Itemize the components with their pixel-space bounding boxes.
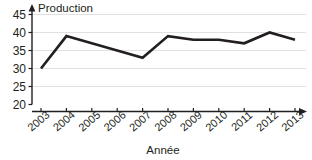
y-tick-labels: 45 40 35 30 25 20 [13, 8, 27, 112]
y-axis-title: Production [38, 2, 93, 14]
x-tick-label-2004: 2004 [51, 108, 77, 133]
x-tick-labels: 2003 2004 2005 2006 2007 2008 2009 2010 … [25, 108, 305, 133]
y-tick-label-30: 30 [13, 62, 27, 76]
x-axis-title: Année [146, 144, 179, 156]
gridlines [32, 15, 306, 87]
y-axis-arrow-icon [29, 4, 36, 12]
y-tick-label-35: 35 [13, 44, 27, 58]
y-tick-label-45: 45 [13, 8, 27, 22]
x-tick-label-2007: 2007 [127, 108, 153, 133]
chart-canvas: 45 40 35 30 25 20 Production 20 [0, 0, 312, 160]
x-tick-label-2003: 2003 [25, 108, 51, 133]
x-tick-label-2010: 2010 [203, 108, 229, 133]
x-tick-label-2011: 2011 [229, 109, 255, 133]
x-tick-label-2008: 2008 [152, 108, 178, 133]
y-tick-label-40: 40 [13, 26, 27, 40]
x-tick-label-2006: 2006 [101, 108, 127, 133]
x-tick-label-2005: 2005 [76, 108, 102, 133]
x-tick-label-2009: 2009 [178, 108, 204, 133]
line-chart: 45 40 35 30 25 20 Production 20 [0, 0, 312, 160]
y-tick-label-20: 20 [13, 98, 27, 112]
y-tick-label-25: 25 [13, 80, 27, 94]
x-tick-label-2012: 2012 [254, 108, 280, 133]
y-axis [29, 4, 36, 105]
